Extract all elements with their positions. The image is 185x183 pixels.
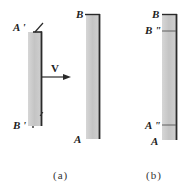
moving-rod-a-prime-b-prime [28,23,43,128]
label-b-double-prime: B " [145,25,161,36]
velocity-arrow [42,74,71,80]
label-a-double-prime: A " [145,120,161,131]
panel-b-rod [162,14,177,140]
label-a: A [74,134,81,145]
label-b: B [76,9,83,20]
caption-b: (b) [146,170,162,181]
caption-a: (a) [53,170,68,181]
stationary-rod-ab [85,14,100,139]
label-a-prime: A ' [13,22,26,33]
label-b-prime: B ' [13,120,26,131]
label-velocity: V [51,63,59,74]
relativity-rod-diagram: A ' B ' V B A (a) B B " A " A (b) [0,0,185,183]
label-b-panel-b: B [152,9,159,20]
label-a-panel-b: A [151,136,158,147]
